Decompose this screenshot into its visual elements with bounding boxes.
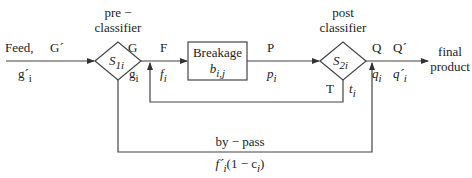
t-symbol: T — [326, 82, 334, 95]
post-classifier-title-2: classifier — [308, 21, 378, 34]
qprime-symbol: Q´ — [393, 41, 407, 54]
p-composition: pi — [267, 67, 277, 85]
post-classifier-symbol: S2i — [333, 54, 348, 72]
post-classifier-title-1: post — [318, 6, 368, 19]
f-symbol: F — [160, 41, 167, 54]
bypass-formula: f´i(1 − ci) — [190, 157, 290, 175]
pre-classifier-title-2: classifier — [83, 21, 153, 34]
bypass-label: by − pass — [200, 135, 280, 148]
final-product-line1: final — [428, 45, 472, 58]
feed-symbol: G´ — [50, 41, 64, 54]
p-symbol: P — [267, 41, 274, 54]
flow-diagram-lines — [0, 0, 472, 178]
q-symbol: Q — [372, 41, 381, 54]
feed-composition: g´i — [18, 67, 32, 85]
g-composition: gi — [129, 67, 139, 85]
final-product-line2: product — [426, 60, 472, 73]
f-composition: fi — [160, 67, 167, 85]
breakage-function: bi,j — [188, 62, 247, 80]
pre-classifier-title-1: pre − — [93, 6, 143, 19]
q-composition: qi — [372, 67, 382, 85]
pre-classifier-symbol: S1i — [109, 54, 124, 72]
breakage-label: Breakage — [188, 46, 247, 59]
qprime-composition: q´i — [393, 67, 407, 85]
t-composition: ti — [349, 82, 356, 100]
g-symbol: G — [128, 41, 137, 54]
feed-label: Feed, — [5, 41, 34, 54]
